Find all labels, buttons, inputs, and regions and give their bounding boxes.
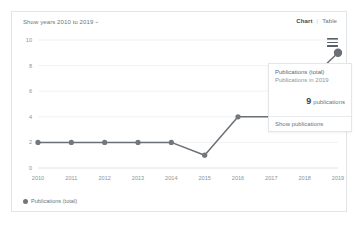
data-point-tooltip: Publications (total) Publications in 201…: [268, 63, 352, 132]
x-axis-tick-label: 2015: [198, 175, 210, 181]
data-point[interactable]: [102, 140, 107, 145]
tooltip-body: Publications (total) Publications in 201…: [269, 64, 351, 112]
x-axis-tick-label: 2017: [265, 175, 277, 181]
data-point[interactable]: [235, 114, 240, 119]
y-axis-tick-label: 10: [26, 37, 32, 43]
year-range-select[interactable]: Show years 2010 to 2019⌄: [23, 18, 99, 25]
x-axis-tick-label: 2012: [98, 175, 110, 181]
x-axis-tick-label: 2011: [65, 175, 77, 181]
x-axis-tick-label: 2018: [298, 175, 310, 181]
legend-marker-icon: [23, 199, 28, 204]
chart-header: Show years 2010 to 2019⌄ Chart|Table: [12, 12, 346, 34]
tab-chart[interactable]: Chart: [296, 18, 312, 24]
tooltip-count-label: publications: [313, 99, 345, 105]
data-point[interactable]: [69, 140, 74, 145]
data-point[interactable]: [202, 153, 207, 158]
year-range-label: Show years 2010 to 2019: [23, 19, 93, 25]
y-axis-tick-label: 4: [29, 114, 32, 120]
data-point-highlighted[interactable]: [335, 49, 342, 56]
y-axis-tick-label: 6: [29, 88, 32, 94]
data-point[interactable]: [169, 140, 174, 145]
y-axis-tick-label: 0: [29, 165, 32, 171]
tooltip-title: Publications (total): [275, 68, 345, 76]
data-point[interactable]: [135, 140, 140, 145]
tab-table[interactable]: Table: [322, 18, 337, 24]
show-publications-button[interactable]: Show publications: [269, 117, 351, 131]
view-toggle: Chart|Table: [296, 18, 337, 24]
tab-separator: |: [316, 18, 318, 24]
tooltip-count-value: 9: [306, 96, 311, 106]
tooltip-subtitle: Publications in 2019: [275, 76, 345, 84]
legend-label: Publications (total): [31, 198, 77, 204]
y-axis-tick-label: 2: [29, 139, 32, 145]
chevron-down-icon: ⌄: [94, 19, 99, 24]
tooltip-count-row: 9publications: [275, 90, 345, 108]
data-point[interactable]: [35, 140, 40, 145]
x-axis-tick-label: 2019: [332, 175, 344, 181]
x-axis-tick-label: 2013: [132, 175, 144, 181]
x-axis-tick-label: 2016: [232, 175, 244, 181]
y-axis-tick-label: 8: [29, 63, 32, 69]
chart-legend[interactable]: Publications (total): [23, 198, 77, 204]
x-axis-tick-label: 2014: [165, 175, 177, 181]
x-axis-tick-label: 2010: [32, 175, 44, 181]
chart-card: Show years 2010 to 2019⌄ Chart|Table 024…: [11, 11, 347, 212]
